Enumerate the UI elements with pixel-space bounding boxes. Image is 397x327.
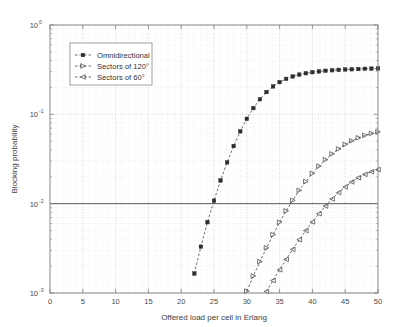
svg-text:10: 10 — [30, 21, 38, 30]
x-tick-label: 15 — [144, 297, 152, 306]
x-tick-label: 45 — [341, 297, 349, 306]
svg-text:-3: -3 — [39, 287, 44, 293]
svg-text:0: 0 — [39, 19, 42, 25]
x-tick-labels: 05101520253035404550 — [48, 297, 382, 306]
svg-text:-1: -1 — [39, 108, 44, 114]
x-tick-label: 5 — [81, 297, 85, 306]
legend-label: Omnidirectional — [97, 51, 150, 60]
chart-canvas: 05101520253035404550 10010-110-210-3 Off… — [0, 0, 397, 327]
x-axis-title: Offered load per cell in Erlang — [161, 313, 267, 322]
svg-text:10: 10 — [30, 110, 38, 119]
svg-text:Blocking probability: Blocking probability — [10, 125, 19, 194]
chart-legend: OmnidirectionalSectors of 120°Sectors of… — [70, 43, 152, 85]
x-tick-label: 50 — [374, 297, 382, 306]
svg-text:10: 10 — [30, 289, 38, 298]
svg-text:Offered load per cell in Erlan: Offered load per cell in Erlang — [161, 313, 267, 322]
svg-text:-2: -2 — [39, 198, 44, 204]
x-tick-label: 0 — [48, 297, 52, 306]
x-tick-label: 20 — [177, 297, 185, 306]
figure-container: 05101520253035404550 10010-110-210-3 Off… — [0, 0, 397, 327]
legend-label: Sectors of 60° — [97, 73, 145, 82]
y-tick-label: 10-3 — [30, 287, 44, 298]
y-tick-labels: 10010-110-210-3 — [30, 19, 44, 298]
y-axis-title: Blocking probability — [10, 125, 19, 194]
legend-label: Sectors of 120° — [97, 62, 149, 71]
x-tick-label: 30 — [243, 297, 251, 306]
x-tick-label: 40 — [308, 297, 316, 306]
svg-text:10: 10 — [30, 200, 38, 209]
x-tick-label: 35 — [275, 297, 283, 306]
y-tick-label: 10-2 — [30, 198, 44, 209]
x-tick-label: 10 — [111, 297, 119, 306]
y-tick-label: 100 — [30, 19, 42, 30]
x-tick-label: 25 — [210, 297, 218, 306]
y-tick-label: 10-1 — [30, 108, 44, 119]
